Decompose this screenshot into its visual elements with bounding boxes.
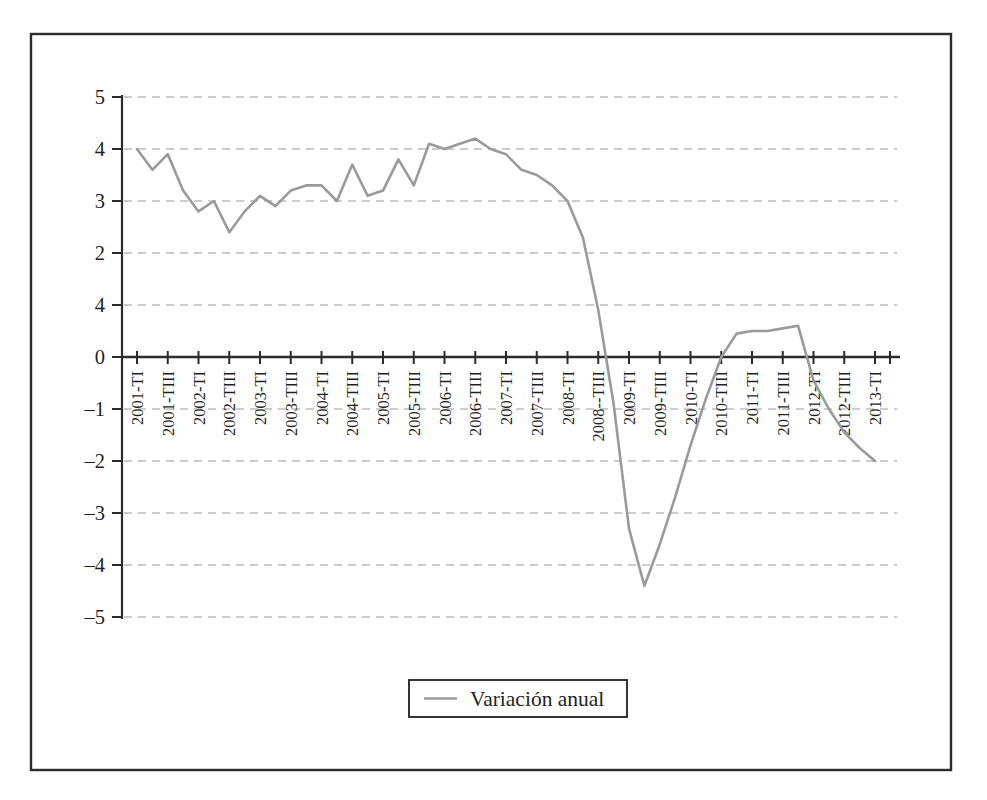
y-tick-label: –5 [84,606,106,628]
x-tick-label: 2010-TIII [712,371,731,436]
x-tick-label: 2007-TI [497,371,516,425]
x-tick-label: 2006-TIII [466,371,485,436]
x-tick-label: 2011-TI [743,371,762,424]
x-tick-label: 2009-TIII [651,371,670,436]
line-chart: 543240–1–2–3–4–52001-TI2001-TIII2002-TI2… [0,0,987,800]
x-tick-label: 2013-TI [866,371,885,425]
y-tick-label: 3 [95,190,105,212]
y-tick-label: –2 [84,450,106,472]
x-tick-label: 2002-TIII [220,371,239,436]
x-tick-label: 2010-TI [682,371,701,425]
x-tick-label: 2008--TIII [589,371,608,442]
x-tick-label: 2001-TIII [159,371,178,436]
y-tick-label: 2 [95,242,105,264]
y-tick-label: –1 [84,398,106,420]
x-tick-label: 2002-TI [190,371,209,425]
x-tick-label: 2005-TIII [405,371,424,436]
x-tick-label: 2001-TI [128,371,147,425]
x-tick-label: 2006-TI [436,371,455,425]
x-tick-label: 2003-TI [251,371,270,425]
x-tick-label: 2004-TI [313,371,332,425]
y-tick-label: –3 [84,502,106,524]
y-tick-label: 5 [95,86,105,108]
x-tick-label: 2012-TIII [835,371,854,436]
y-tick-label: –4 [84,554,106,576]
y-tick-label: 4 [95,294,105,316]
x-tick-label: 2011-TIII [774,371,793,435]
x-tick-label: 2007-TIII [528,371,547,436]
scanned-page: 543240–1–2–3–4–52001-TI2001-TIII2002-TI2… [0,0,987,800]
x-tick-label: 2004-TIII [343,371,362,436]
x-tick-label: 2003-TIII [282,371,301,436]
x-tick-label: 2008-TI [559,371,578,425]
x-tick-label: 2009-TI [620,371,639,425]
x-tick-label: 2005-TI [374,371,393,425]
legend: Variación anual [409,680,627,717]
y-tick-label: 4 [95,138,105,160]
legend-label: Variación anual [470,687,604,711]
y-tick-label: 0 [95,346,105,368]
